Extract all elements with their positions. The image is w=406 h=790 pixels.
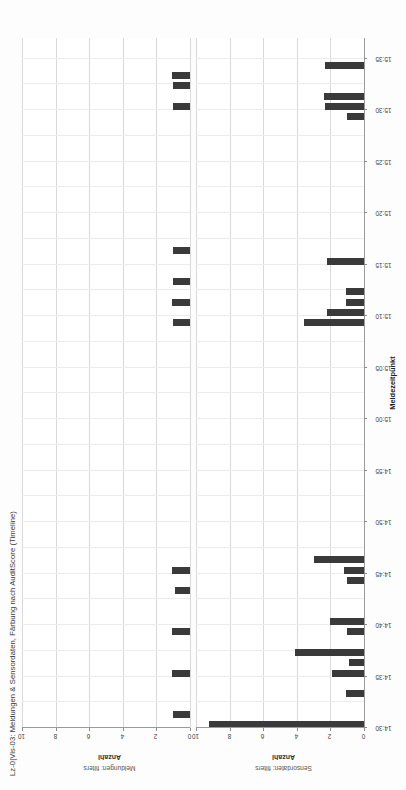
gridline-value	[190, 38, 191, 728]
panel-meldungen	[22, 38, 190, 728]
x-tick-label: 15:05	[376, 364, 392, 371]
x-tick-label: 14:50	[376, 519, 392, 526]
y-tick-label: 2	[154, 733, 158, 740]
y-tick-label: 10	[192, 733, 199, 740]
page-title: Lz-0|Vis-03: Meldungen & Sensordaten, Fä…	[8, 511, 17, 776]
x-tick-mark	[364, 418, 367, 419]
y-tick-mark	[22, 728, 23, 731]
y-tick-mark	[123, 728, 124, 731]
y-tick-mark	[156, 728, 157, 731]
x-tick-mark	[364, 367, 367, 368]
x-tick-label: 15:30	[376, 107, 392, 114]
x-tick-mark	[364, 315, 367, 316]
axis-label-anzahl-meldungen: Anzahl	[98, 754, 121, 761]
x-tick-label: 15:35	[376, 55, 392, 62]
y-tick-mark	[196, 728, 197, 731]
y-tick-label: 4	[295, 733, 299, 740]
panel-frame	[196, 38, 364, 728]
y-tick-mark	[190, 728, 191, 731]
x-tick-label: 15:15	[376, 261, 392, 268]
facet-label-sensordaten: Sensordaten: filters	[255, 765, 312, 772]
x-tick-mark	[364, 109, 367, 110]
x-tick-label: 14:30	[376, 725, 392, 732]
x-tick-label: 14:55	[376, 467, 392, 474]
y-tick-label: 6	[87, 733, 91, 740]
x-tick-mark	[364, 624, 367, 625]
y-tick-label: 8	[227, 733, 231, 740]
y-tick-label: 8	[53, 733, 57, 740]
y-tick-label: 6	[261, 733, 265, 740]
facet-label-meldungen: Meldungen: filters	[83, 765, 135, 772]
x-tick-mark	[364, 727, 367, 728]
x-tick-mark	[364, 676, 367, 677]
x-tick-mark	[364, 470, 367, 471]
x-tick-label: 15:00	[376, 416, 392, 423]
x-tick-label: 15:20	[376, 210, 392, 217]
y-tick-mark	[230, 728, 231, 731]
x-tick-label: 15:25	[376, 158, 392, 165]
y-tick-mark	[330, 728, 331, 731]
x-tick-mark	[364, 521, 367, 522]
panel-frame	[22, 38, 190, 728]
y-tick-mark	[297, 728, 298, 731]
panel-sensordaten	[196, 38, 364, 728]
y-tick-mark	[364, 728, 365, 731]
x-tick-label: 14:45	[376, 570, 392, 577]
y-tick-mark	[56, 728, 57, 731]
x-tick-mark	[364, 58, 367, 59]
x-tick-mark	[364, 573, 367, 574]
y-tick-label: 2	[328, 733, 332, 740]
x-tick-label: 14:40	[376, 622, 392, 629]
scanned-chart-page: ‹ Lz-0|Vis-03: Meldungen & Sensordaten, …	[0, 0, 406, 790]
y-tick-label: 0	[188, 733, 192, 740]
x-tick-label: 15:10	[376, 313, 392, 320]
y-tick-mark	[89, 728, 90, 731]
axis-label-anzahl-sensordaten: Anzahl	[272, 754, 295, 761]
x-tick-label: 14:35	[376, 673, 392, 680]
chart-canvas: Lz-0|Vis-03: Meldungen & Sensordaten, Fä…	[0, 0, 406, 790]
y-tick-mark	[263, 728, 264, 731]
y-tick-label: 10	[18, 733, 25, 740]
x-tick-mark	[364, 161, 367, 162]
y-tick-label: 0	[362, 733, 366, 740]
y-tick-label: 4	[121, 733, 125, 740]
x-tick-mark	[364, 264, 367, 265]
x-tick-mark	[364, 212, 367, 213]
